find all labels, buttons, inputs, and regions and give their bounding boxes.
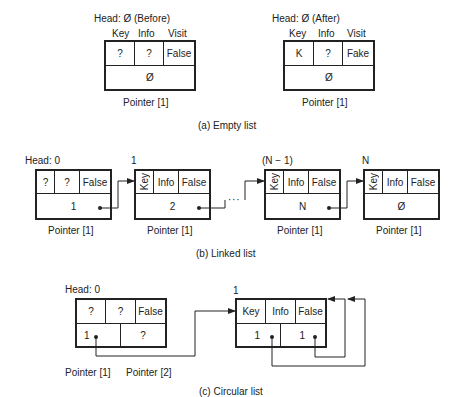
cell-key: K: [285, 42, 314, 65]
pointer-label: Pointer [1]: [123, 97, 169, 109]
col-visit: Visit: [168, 28, 187, 40]
cell-info: ?: [106, 300, 136, 323]
cell-pointer: 2: [136, 193, 209, 218]
cell-pointer-2: ?: [121, 323, 165, 346]
cell-key: ?: [106, 42, 135, 65]
caption-c: (c) Circular list: [199, 386, 263, 397]
cell-visit: False: [309, 171, 339, 193]
node-index-label: 1: [131, 155, 137, 167]
cell-info: Info: [383, 171, 408, 193]
cell-pointer-1: 1: [77, 323, 121, 346]
cell-pointer: Ø: [285, 65, 373, 89]
cell-visit: False: [164, 42, 194, 65]
pointer-label: Pointer [1]: [302, 97, 348, 109]
cell-visit: False: [408, 171, 438, 193]
cell-info: Info: [266, 300, 296, 323]
cell-pointer: Ø: [365, 193, 438, 218]
node-index-label: N: [362, 155, 369, 167]
cell-key: ?: [37, 171, 55, 193]
cell-info: ?: [135, 42, 164, 65]
head-label-after: Head: Ø (After): [272, 13, 340, 25]
cell-visit: False: [296, 300, 325, 323]
cell-key: Key: [136, 171, 154, 193]
pointer-label: Pointer [1]: [376, 225, 422, 237]
cell-key: ?: [77, 300, 106, 323]
pointer-label: Pointer [1]: [277, 225, 323, 237]
cell-pointer: N: [266, 193, 339, 218]
cell-visit: False: [136, 300, 165, 323]
cell-visit: False: [80, 171, 110, 193]
cell-key: Key: [365, 171, 383, 193]
node-index-label: 1: [233, 285, 239, 297]
col-key: Key: [289, 28, 306, 40]
cell-pointer-2: 1: [281, 323, 325, 346]
cell-info: ?: [314, 42, 343, 65]
col-key: Key: [112, 28, 129, 40]
cell-key: Key: [237, 300, 266, 323]
head-label-before: Head: Ø (Before): [94, 13, 170, 25]
pointer-label-2: Pointer [2]: [126, 367, 172, 379]
cell-info: Info: [284, 171, 309, 193]
ellipsis: · · ·: [228, 194, 239, 206]
cell-pointer-1: 1: [237, 323, 281, 346]
cell-pointer: Ø: [106, 65, 194, 89]
col-info: Info: [138, 28, 155, 40]
cell-visit: False: [179, 171, 209, 193]
node-index-label: (N − 1): [262, 155, 293, 167]
node-index-label: Head: 0: [65, 284, 100, 296]
cell-info: Info: [154, 171, 179, 193]
col-info: Info: [318, 28, 335, 40]
node-index-label: Head: 0: [25, 155, 60, 167]
cell-info: ?: [55, 171, 80, 193]
cell-visit: Fake: [343, 42, 373, 65]
caption-a: (a) Empty list: [198, 120, 256, 132]
col-visit: Visit: [347, 28, 366, 40]
caption-b: (b) Linked list: [196, 248, 255, 260]
cell-pointer: 1: [37, 193, 110, 218]
pointer-label-1: Pointer [1]: [65, 367, 111, 379]
cell-key: Key: [266, 171, 284, 193]
pointer-label: Pointer [1]: [147, 225, 193, 237]
pointer-label: Pointer [1]: [48, 225, 94, 237]
